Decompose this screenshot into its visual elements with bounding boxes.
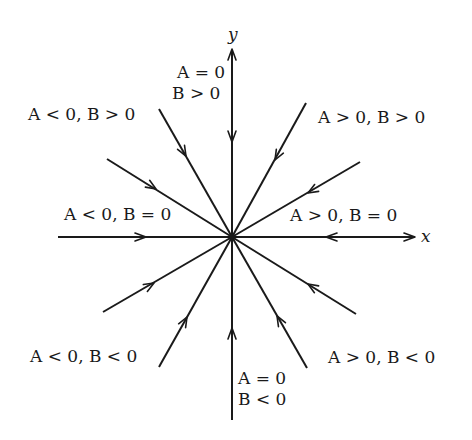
label-a-pos-b-zero: A > 0, B = 0	[289, 205, 397, 225]
x-axis-label: x	[421, 226, 431, 246]
trajectory-upper-left-shallow	[107, 159, 232, 237]
label-a-neg-b-pos: A < 0, B > 0	[27, 104, 135, 124]
label-a-zero-b-pos-line2: B > 0	[172, 83, 220, 103]
origin-node	[229, 234, 235, 240]
trajectory-lower-right-shallow	[232, 237, 356, 314]
label-a-neg-b-neg: A < 0, B < 0	[29, 346, 137, 366]
label-a-zero-b-pos-line1: A = 0	[176, 62, 225, 82]
label-a-neg-b-zero: A < 0, B = 0	[63, 204, 171, 224]
label-a-pos-b-pos: A > 0, B > 0	[317, 107, 425, 127]
trajectory-upper-right-shallow	[232, 162, 360, 237]
trajectory-lower-right-steep	[232, 237, 307, 368]
y-axis-label: y	[227, 24, 238, 44]
label-a-zero-b-neg-line2: B < 0	[238, 389, 286, 409]
label-a-zero-b-neg-line1: A = 0	[237, 368, 286, 388]
trajectory-lower-left-steep	[159, 237, 232, 367]
trajectory-lower-left-shallow	[103, 237, 232, 312]
label-a-pos-b-neg: A > 0, B < 0	[327, 347, 435, 367]
phase-portrait-diagram: y x A = 0 B > 0 A < 0, B > 0 A > 0, B > …	[0, 0, 472, 440]
